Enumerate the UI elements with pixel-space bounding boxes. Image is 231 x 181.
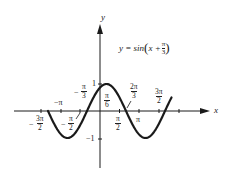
- frac-num: π: [115, 115, 121, 123]
- frac-num: π: [81, 83, 87, 91]
- pointer-2pi-3: [127, 101, 131, 108]
- x-tick-neg-pi-2: π 2: [68, 115, 74, 131]
- y-axis-label: y: [101, 13, 105, 22]
- equation-prefix: y = sin: [119, 43, 144, 53]
- x-tick-2pi-3: 2π 3: [129, 83, 139, 99]
- frac-den: 3: [131, 91, 137, 100]
- frac-num: π: [104, 92, 110, 100]
- frac-den: 2: [37, 123, 43, 132]
- frac-den: 2: [156, 96, 162, 105]
- x-tick-neg-pi-3: π 3: [81, 83, 87, 99]
- paren-close: ): [165, 40, 169, 56]
- frac-den: 2: [68, 123, 74, 132]
- y-tick-1: 1: [92, 80, 96, 88]
- equation-label: y = sin ( x + π 3 ): [119, 40, 170, 56]
- x-tick-neg-pi-3-sign: −: [74, 88, 79, 97]
- frac-num: 3π: [154, 88, 164, 96]
- equation-x: x +: [148, 43, 160, 53]
- frac-num: π: [68, 115, 74, 123]
- x-tick-pi-6: π 6: [104, 92, 110, 108]
- frac-den: 3: [81, 91, 87, 100]
- frac-num: 2π: [129, 83, 139, 91]
- x-tick-pi-2: π 2: [115, 115, 121, 131]
- frac-num: 3π: [35, 115, 45, 123]
- x-tick-neg-3pi-2: 3π 2: [35, 115, 45, 131]
- x-tick-neg-3pi-2-sign: −: [29, 120, 34, 129]
- x-tick-pi: π: [136, 116, 140, 124]
- y-axis-arrow-icon: [97, 24, 103, 34]
- x-axis-arrow-icon: [200, 108, 210, 114]
- frac-den: 6: [104, 100, 110, 109]
- x-tick-3pi-2: 3π 2: [154, 88, 164, 104]
- x-tick-neg-pi-2-sign: −: [61, 120, 66, 129]
- function-graph: [0, 0, 231, 181]
- frac-den: 2: [115, 123, 121, 132]
- y-tick-neg1: −1: [86, 135, 95, 143]
- x-tick-neg-pi: −π: [54, 99, 63, 107]
- pointer-neg-pi-2: [76, 113, 80, 119]
- x-axis-label: x: [214, 106, 218, 115]
